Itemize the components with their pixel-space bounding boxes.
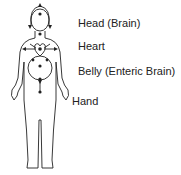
label-belly: Belly (Enteric Brain) (78, 65, 175, 77)
label-hand: Hand (72, 95, 98, 107)
label-heart: Heart (78, 40, 105, 52)
label-head: Head (Brain) (78, 17, 140, 29)
